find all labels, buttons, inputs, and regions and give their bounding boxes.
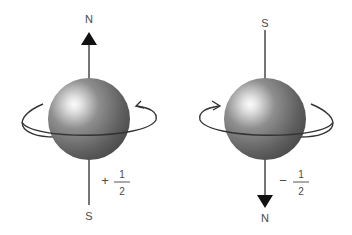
spin-up-sign: + [101, 173, 109, 188]
spin-up-top-label: N [85, 13, 93, 25]
down-arrowhead-icon [257, 195, 273, 208]
spin-down-sign: − [279, 173, 287, 188]
spin-down-numerator: 1 [298, 169, 304, 180]
spin-up-numerator: 1 [119, 169, 125, 180]
spin-diagram: N S + 1 2 S N − 1 2 [0, 0, 352, 235]
up-arrowhead-icon [81, 32, 97, 45]
spin-up-sphere [48, 78, 130, 160]
spin-down-denominator: 2 [298, 186, 304, 197]
spin-down-group: S N − 1 2 [200, 17, 333, 224]
spin-up-bottom-label: S [85, 210, 92, 222]
spin-up-group: N S + 1 2 [22, 13, 156, 222]
spin-up-denominator: 2 [119, 186, 125, 197]
spin-down-bottom-label: N [261, 212, 269, 224]
spin-down-top-label: S [261, 17, 268, 29]
spin-down-sphere [224, 78, 306, 160]
rotation-arrow-icon [212, 101, 220, 110]
